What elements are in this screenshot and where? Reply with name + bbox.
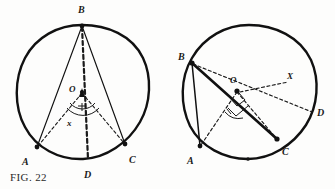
right-label-a: A <box>186 155 194 166</box>
right-label-d: D <box>316 107 324 118</box>
left-label-x: x <box>66 118 72 128</box>
figure-caption: FIG. 22 <box>10 171 47 183</box>
right-point-c-dot <box>274 136 279 141</box>
right-arc-bottom-dot <box>246 157 250 161</box>
left-label-d: D <box>83 169 91 180</box>
right-point-b-dot <box>189 60 194 65</box>
left-label-b: B <box>77 4 85 15</box>
left-point-c-dot <box>123 142 128 147</box>
figure-background <box>0 0 335 189</box>
figure-22-root: B A C D O x <box>0 0 335 189</box>
right-label-b: B <box>177 51 185 62</box>
right-point-a-dot <box>198 144 203 149</box>
right-label-o: O <box>230 75 237 85</box>
left-center-dot-core <box>80 90 84 94</box>
left-label-o: O <box>69 84 76 94</box>
right-label-x: X <box>286 71 294 81</box>
left-label-c: C <box>129 154 136 165</box>
left-point-b-dot <box>80 24 85 29</box>
figure-22-svg: B A C D O x <box>0 0 335 189</box>
left-point-a-dot <box>35 145 40 150</box>
right-label-c: C <box>282 146 289 157</box>
left-label-a: A <box>21 156 29 167</box>
right-center-dot <box>234 88 239 93</box>
